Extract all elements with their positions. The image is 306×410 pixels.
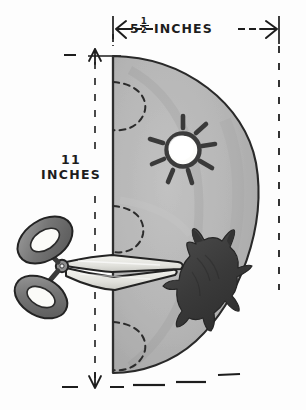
width-fraction: 12 [140, 17, 148, 35]
height-dimension-label: 11 INCHES [32, 152, 110, 183]
scissors-handle-lower [7, 267, 74, 327]
width-unit: INCHES [154, 21, 213, 36]
height-unit: INCHES [32, 167, 110, 182]
folded-paper [113, 56, 258, 373]
folded-paper-illustration [0, 0, 306, 410]
illustration-canvas: 512 INCHES 11 INCHES [0, 0, 306, 410]
height-value: 11 [32, 152, 110, 167]
width-dimension-label: 512 INCHES [130, 17, 213, 36]
fraction-denominator: 2 [140, 26, 148, 34]
width-value: 5 [130, 21, 140, 36]
